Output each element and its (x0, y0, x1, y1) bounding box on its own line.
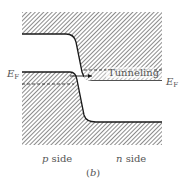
tunneling-label: Tunneling (108, 67, 160, 78)
panel-label: (b) (86, 167, 100, 178)
fermi-level-right-label: EF (165, 76, 178, 89)
valence-band-region (22, 72, 162, 145)
fermi-level-left-label: EF (6, 68, 19, 81)
n-side-label: n side (116, 153, 146, 164)
p-side-label: p side (42, 153, 72, 164)
tunnel-diode-band-diagram: Tunneling EF EF p side n side (b) (0, 0, 186, 181)
